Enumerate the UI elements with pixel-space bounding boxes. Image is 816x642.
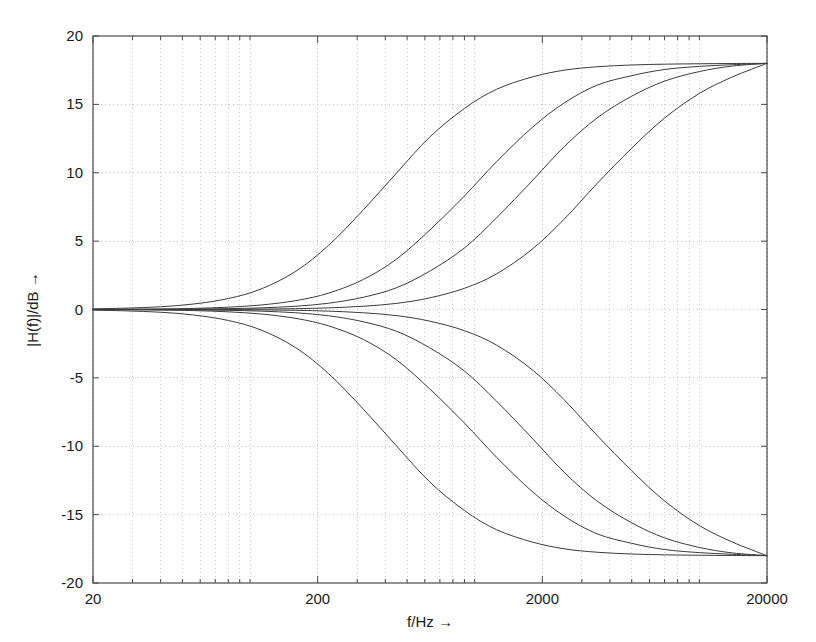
- y-tick-label: -20: [61, 574, 83, 591]
- x-tick-label: 200: [305, 590, 330, 607]
- y-axis-title: |H(f)|/dB →: [24, 272, 41, 346]
- x-tick-label: 20: [85, 590, 102, 607]
- y-tick-label: 15: [66, 95, 83, 112]
- y-tick-label: 0: [75, 301, 83, 318]
- y-tick-label: -10: [61, 437, 83, 454]
- x-tick-label: 2000: [526, 590, 559, 607]
- y-tick-label: -5: [70, 369, 83, 386]
- y-tick-label: 10: [66, 164, 83, 181]
- y-tick-label: 5: [75, 232, 83, 249]
- x-axis-title: f/Hz →: [407, 613, 453, 630]
- y-tick-label: -15: [61, 506, 83, 523]
- figure-container: 20200200020000 -20-15-10-505101520 f/Hz …: [0, 0, 816, 642]
- chart-canvas: 20200200020000 -20-15-10-505101520 f/Hz …: [0, 0, 816, 642]
- x-tick-label: 20000: [746, 590, 788, 607]
- y-tick-label: 20: [66, 27, 83, 44]
